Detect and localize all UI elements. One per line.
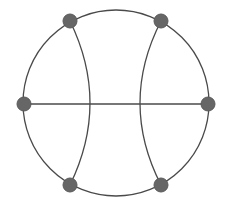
node-left xyxy=(17,97,31,111)
edge-top-right-bottom-right xyxy=(140,21,161,185)
node-top-left xyxy=(63,14,77,28)
edges-layer xyxy=(23,10,209,196)
edge-top-left-bottom-left xyxy=(70,21,90,185)
node-top-right xyxy=(154,14,168,28)
outer-circle xyxy=(23,10,209,196)
node-bottom-left xyxy=(63,178,77,192)
node-bottom-right xyxy=(154,178,168,192)
node-right xyxy=(201,97,215,111)
graph-diagram xyxy=(0,0,225,208)
